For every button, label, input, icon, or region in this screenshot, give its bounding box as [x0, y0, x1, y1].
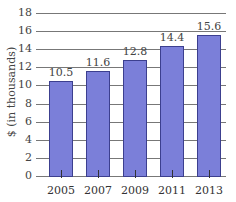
y-tick-label: 10 — [12, 78, 32, 91]
gridline — [36, 13, 226, 14]
y-tick-label: 16 — [12, 24, 32, 37]
x-tick-mark — [61, 170, 62, 178]
x-tick-label: 2009 — [118, 184, 152, 197]
bar-2011 — [160, 46, 184, 177]
bar-value-label: 15.6 — [192, 20, 226, 33]
y-tick-label: 14 — [12, 42, 32, 55]
y-tick-label: 8 — [12, 97, 32, 110]
y-tick-label: 2 — [12, 151, 32, 164]
x-tick-label: 2011 — [155, 184, 189, 197]
x-tick-mark — [135, 170, 136, 178]
bar-value-label: 14.4 — [155, 31, 189, 44]
bar-value-label: 12.8 — [118, 45, 152, 58]
bar-2005 — [49, 81, 73, 177]
bar-2009 — [123, 60, 147, 177]
x-tick-label: 2005 — [44, 184, 78, 197]
x-tick-mark — [172, 170, 173, 178]
y-tick-label: 4 — [12, 133, 32, 146]
bar-value-label: 10.5 — [44, 66, 78, 79]
y-tick-label: 12 — [12, 60, 32, 73]
y-tick-label: 18 — [12, 6, 32, 19]
x-tick-label: 2013 — [192, 184, 226, 197]
x-tick-mark — [98, 170, 99, 178]
bar-value-label: 11.6 — [81, 56, 115, 69]
bar-2013 — [197, 35, 221, 177]
bar-2007 — [86, 71, 110, 177]
x-tick-label: 2007 — [81, 184, 115, 197]
x-tick-mark — [209, 170, 210, 178]
y-tick-label: 6 — [12, 115, 32, 128]
y-tick-label: 0 — [12, 169, 32, 182]
bar-chart: $ (in thousands) 024681012141618 10.511.… — [0, 0, 236, 202]
